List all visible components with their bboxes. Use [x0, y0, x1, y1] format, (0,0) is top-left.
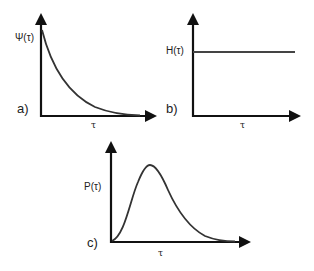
panel-c-xlabel: τ [158, 248, 163, 258]
panel-b-x-arrow-icon [289, 110, 301, 122]
panel-c-y-arrow-icon [105, 141, 117, 153]
panel-b-ylabel: H(τ) [166, 45, 184, 56]
figure-canvas [0, 0, 314, 271]
panel-c-tag: c) [87, 235, 98, 250]
panel-a-decay-curve [42, 30, 140, 116]
panel-c-ylabel: P(τ) [84, 181, 101, 192]
panel-b-y-arrow-icon [187, 13, 199, 25]
panel-c-x-arrow-icon [239, 236, 251, 248]
panel-a-ylabel: Ψ(τ) [15, 32, 34, 43]
panel-b-tag: b) [166, 101, 178, 116]
panel-a-x-arrow-icon [145, 110, 157, 122]
panel-c-distribution-curve [112, 165, 235, 242]
panel-c [105, 141, 251, 248]
panel-b [187, 13, 301, 122]
panel-a-y-arrow-icon [35, 13, 47, 25]
panel-a-tag: a) [17, 101, 29, 116]
panel-a [35, 13, 157, 122]
panel-a-xlabel: τ [91, 120, 96, 130]
panel-b-xlabel: τ [240, 120, 245, 130]
